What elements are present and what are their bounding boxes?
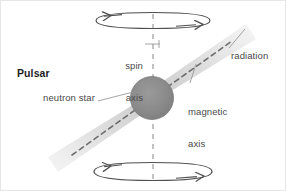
label-spin-axis-line1: spin	[113, 61, 143, 72]
label-radiation: radiation	[231, 51, 268, 62]
pulsar-diagram: Pulsar neutron star spin axis magnetic a…	[0, 0, 286, 191]
label-pulsar: Pulsar	[17, 68, 50, 79]
label-magnetic-axis-line2: axis	[188, 139, 227, 150]
label-spin-axis-line2: axis	[113, 93, 143, 104]
label-magnetic-axis: magnetic axis	[188, 86, 227, 170]
label-magnetic-axis-line1: magnetic	[188, 107, 227, 118]
label-neutron-star: neutron star	[43, 93, 95, 104]
label-spin-axis: spin axis	[113, 40, 143, 124]
